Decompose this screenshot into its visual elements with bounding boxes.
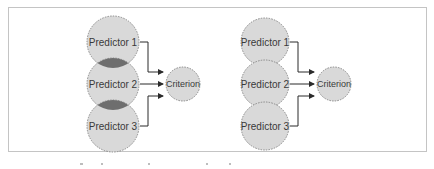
predictor-2-label: Predictor 2 <box>241 79 290 90</box>
arrow-predictor-3-to-criterion <box>290 96 314 126</box>
diagram-canvas: Predictor 1 Predictor 2 Predictor 3 Crit… <box>0 0 434 169</box>
predictor-3-label: Predictor 3 <box>241 121 290 132</box>
predictor-1-label: Predictor 1 <box>89 37 138 48</box>
criterion-label: Criterion <box>166 79 200 89</box>
criterion-label: Criterion <box>317 79 351 89</box>
arrow-predictor-3-to-criterion <box>140 96 163 126</box>
arrow-predictor-1-to-criterion <box>290 42 314 72</box>
predictor-2-label: Predictor 2 <box>89 79 138 90</box>
cropped-caption <box>10 163 430 169</box>
panel-overlapping-predictors: Predictor 1 Predictor 2 Predictor 3 Crit… <box>87 16 200 152</box>
predictor-3-label: Predictor 3 <box>89 121 138 132</box>
arrow-predictor-1-to-criterion <box>140 42 163 72</box>
panel-independent-predictors: Predictor 1 Predictor 2 Predictor 3 Crit… <box>241 18 351 150</box>
predictor-1-label: Predictor 1 <box>241 37 290 48</box>
